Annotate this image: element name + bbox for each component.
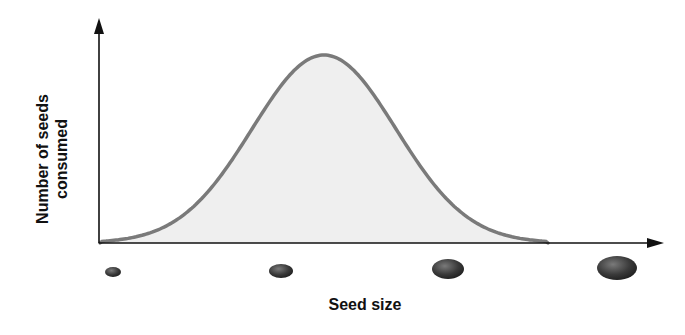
- medium-seed-icon: [269, 264, 293, 278]
- x-axis-label: Seed size: [300, 296, 430, 314]
- extra-large-seed-icon: [597, 256, 637, 280]
- diagram: [0, 0, 685, 335]
- seed-icons: [105, 256, 637, 280]
- small-seed-icon: [105, 267, 121, 277]
- x-axis-arrow-icon: [647, 238, 664, 248]
- y-axis-label: Number of seeds consumed: [33, 89, 71, 229]
- y-axis-arrow-icon: [94, 18, 104, 34]
- large-seed-icon: [432, 259, 464, 279]
- y-axis-label-line-1: Number of seeds: [33, 89, 52, 229]
- y-axis-label-line-2: consumed: [52, 89, 71, 229]
- distribution-area: [100, 55, 548, 243]
